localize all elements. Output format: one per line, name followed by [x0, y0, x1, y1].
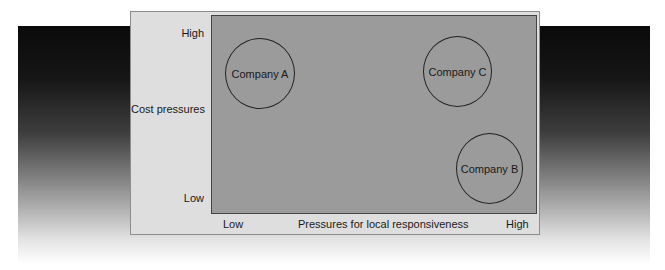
company-b-label: Company B: [461, 163, 518, 175]
company-b-circle: Company B: [456, 133, 523, 204]
company-a-label: Company A: [232, 68, 289, 80]
company-a-circle: Company A: [225, 38, 295, 109]
x-axis-low-label: Low: [223, 218, 243, 230]
x-axis-high-label: High: [506, 218, 529, 230]
y-axis-title: Cost pressures: [131, 103, 205, 115]
company-c-label: Company C: [428, 66, 486, 78]
y-axis-high-label: High: [181, 27, 204, 39]
y-axis-low-label: Low: [184, 192, 204, 204]
x-axis-title: Pressures for local responsiveness: [298, 218, 469, 230]
company-c-circle: Company C: [423, 36, 492, 107]
